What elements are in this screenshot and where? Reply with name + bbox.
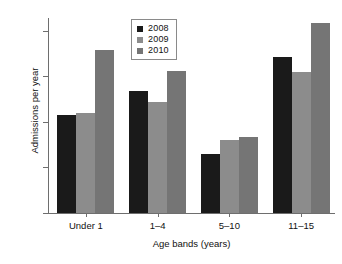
bar-2010-5–10 <box>239 137 258 213</box>
x-tick-mark <box>229 213 230 217</box>
bar-2008-5–10 <box>201 154 220 213</box>
bar-group <box>201 18 258 213</box>
bar-2010-1–4 <box>167 71 186 213</box>
plot-area <box>48 18 335 213</box>
legend-item: 2009 <box>137 34 169 45</box>
bar-2009-5–10 <box>220 140 239 213</box>
legend-item: 2008 <box>137 23 169 34</box>
legend-label: 2010 <box>148 45 169 56</box>
legend-label: 2008 <box>148 23 169 34</box>
y-axis-title: Admissions per year <box>29 21 40 201</box>
x-tick-label: 5–10 <box>189 220 269 232</box>
legend-swatch-icon <box>137 37 143 43</box>
bar-2010-under-1 <box>95 50 114 213</box>
legend-swatch-icon <box>137 48 143 54</box>
bar-2009-11–15 <box>292 72 311 213</box>
x-tick-mark <box>158 213 159 217</box>
x-tick-label: 1–4 <box>118 220 198 232</box>
x-axis-line <box>48 213 335 214</box>
legend-label: 2009 <box>148 34 169 45</box>
chart-legend: 200820092010 <box>131 19 177 60</box>
legend-swatch-icon <box>137 26 143 32</box>
x-tick-label: 11–15 <box>261 220 341 232</box>
x-tick-mark <box>86 213 87 217</box>
bar-2009-1–4 <box>148 102 167 213</box>
x-tick-mark <box>301 213 302 217</box>
bar-2010-11–15 <box>311 23 330 213</box>
legend-item: 2010 <box>137 45 169 56</box>
x-axis-title: Age bands (years) <box>48 238 335 250</box>
bar-2008-1–4 <box>129 91 148 213</box>
bar-chart-figure: 050100150200 Admissions per year Under 1… <box>0 0 342 264</box>
bar-2008-under-1 <box>57 115 76 213</box>
bar-group <box>57 18 114 213</box>
bar-2008-11–15 <box>273 57 292 213</box>
x-tick-label: Under 1 <box>46 220 126 232</box>
bar-2009-under-1 <box>76 113 95 213</box>
bar-group <box>273 18 330 213</box>
